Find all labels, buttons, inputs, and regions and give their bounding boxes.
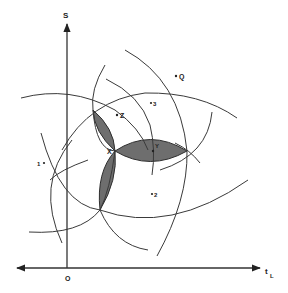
x-axis-label-subscript: L bbox=[270, 273, 274, 279]
point-q-label: Q bbox=[179, 73, 185, 81]
y-axis-label: S bbox=[63, 11, 69, 20]
point-1-label: 1 bbox=[37, 161, 41, 167]
shaded-lens-lower-left bbox=[99, 151, 115, 210]
point-z-marker bbox=[116, 114, 118, 116]
diagram-canvas: S t L O Q 3 Z 1 2 X Y bbox=[0, 0, 288, 293]
x-axis-label: t bbox=[265, 267, 268, 276]
point-z-label: Z bbox=[120, 112, 125, 119]
point-3-marker bbox=[150, 102, 152, 104]
point-2-label: 2 bbox=[154, 192, 158, 198]
point-y-label: Y bbox=[155, 143, 159, 149]
point-3-label: 3 bbox=[153, 101, 157, 107]
arc-10 bbox=[51, 140, 72, 243]
point-2-marker bbox=[151, 193, 153, 195]
shaded-lens-right bbox=[115, 140, 187, 162]
point-y-marker bbox=[152, 150, 154, 152]
point-q-marker bbox=[175, 75, 177, 77]
point-x-label: X bbox=[107, 148, 112, 155]
shaded-regions bbox=[93, 110, 187, 210]
origin-label: O bbox=[65, 275, 71, 282]
diagram: S t L O Q 3 Z 1 2 X Y bbox=[0, 0, 288, 293]
arc-12 bbox=[50, 160, 88, 180]
arc-1 bbox=[21, 94, 148, 150]
point-1-marker bbox=[43, 162, 45, 164]
